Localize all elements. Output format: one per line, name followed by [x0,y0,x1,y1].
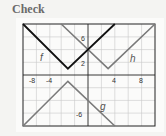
graph: -8 -4 4 8 6 2 -6 f h g [0,0,166,136]
x-tick--4: -4 [46,77,52,84]
x-tick-8: 8 [139,77,143,84]
x-tick-4: 4 [112,77,116,84]
label-h: h [130,53,136,64]
label-f: f [40,52,44,63]
y-tick-6: 6 [81,35,85,42]
y-tick--6: -6 [76,111,82,118]
y-tick-2: 2 [81,60,85,67]
x-tick--8: -8 [29,77,35,84]
label-g: g [100,101,106,112]
